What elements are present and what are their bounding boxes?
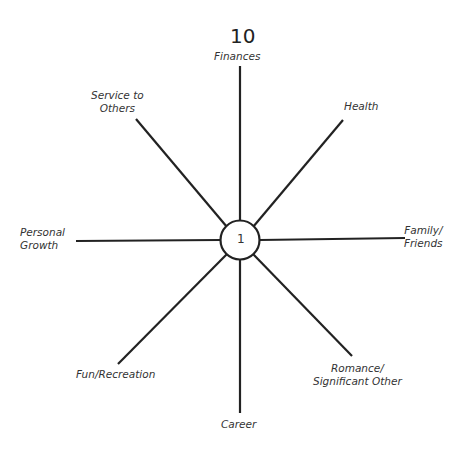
label-health: Health <box>344 100 378 113</box>
label-romance: Romance/ Significant Other <box>313 362 402 388</box>
label-fun-recreation: Fun/Recreation <box>76 368 155 381</box>
label-finances: Finances <box>214 50 260 63</box>
spoke-family <box>260 238 405 240</box>
spoke-service <box>136 119 227 227</box>
spoke-romance <box>253 254 352 356</box>
label-line: Growth <box>20 239 65 252</box>
label-line: Romance/ <box>313 362 402 375</box>
label-line: Friends <box>404 237 443 250</box>
label-personal-growth: Personal Growth <box>20 226 65 252</box>
label-line: Service to <box>91 89 144 102</box>
spoke-health <box>253 120 343 227</box>
spoke-personal-growth <box>76 240 220 241</box>
label-family-friends: Family/ Friends <box>404 224 443 250</box>
label-career: Career <box>221 418 256 431</box>
label-line: Others <box>91 102 144 115</box>
spoke-fun <box>118 254 227 364</box>
label-line: Personal <box>20 226 65 239</box>
label-line: Significant Other <box>313 375 402 388</box>
label-service-to-others: Service to Others <box>91 89 144 115</box>
scale-max-label: 10 <box>230 24 255 48</box>
center-value-label: 1 <box>237 233 245 246</box>
label-line: Family/ <box>404 224 443 237</box>
